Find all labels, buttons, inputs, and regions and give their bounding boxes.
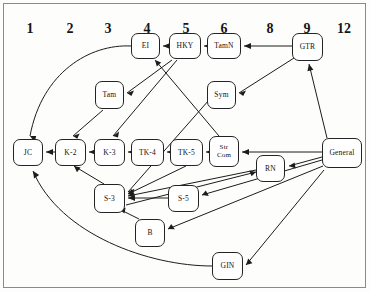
- node-tk4[interactable]: TK-4: [131, 139, 164, 166]
- node-gtr[interactable]: GTR: [292, 33, 323, 61]
- model-hierarchy-diagram: 1234568912 JCK-2K-3TK-4TK-5Str ComTamSym…: [0, 0, 370, 292]
- node-label: Sym: [214, 91, 228, 99]
- node-jc[interactable]: JC: [13, 139, 43, 166]
- node-tamn[interactable]: TamN: [207, 33, 241, 59]
- node-label: RN: [265, 165, 276, 173]
- node-b[interactable]: B: [135, 219, 165, 247]
- node-label: B: [147, 229, 152, 237]
- column-number-1: 1: [27, 22, 34, 36]
- node-label: S-3: [104, 195, 115, 203]
- node-label: K-3: [103, 149, 115, 157]
- node-strcom[interactable]: Str Com: [209, 136, 239, 167]
- node-label: TamN: [214, 42, 233, 50]
- node-label: HKY: [177, 42, 194, 50]
- node-label: GTR: [300, 43, 316, 51]
- node-k3[interactable]: K-3: [94, 139, 125, 166]
- node-tam[interactable]: Tam: [95, 81, 124, 109]
- node-label: GIN: [221, 262, 235, 270]
- node-label: EI: [142, 42, 149, 50]
- node-label: TK-5: [178, 149, 195, 157]
- column-number-12: 12: [337, 22, 351, 36]
- node-label: JC: [24, 149, 32, 157]
- node-label: K-2: [64, 149, 76, 157]
- node-rn[interactable]: RN: [256, 155, 285, 182]
- column-number-3: 3: [105, 22, 112, 36]
- node-label: Tam: [103, 91, 117, 99]
- node-label: General: [329, 149, 354, 157]
- column-number-2: 2: [67, 22, 74, 36]
- node-ei[interactable]: EI: [131, 33, 160, 59]
- node-label: TK-4: [139, 149, 156, 157]
- node-k2[interactable]: K-2: [55, 139, 86, 166]
- node-hky[interactable]: HKY: [169, 33, 201, 59]
- column-number-8: 8: [267, 22, 274, 36]
- node-tk5[interactable]: TK-5: [170, 139, 203, 166]
- node-gin[interactable]: GIN: [212, 252, 243, 280]
- node-sym[interactable]: Sym: [207, 81, 236, 109]
- node-s5[interactable]: S-5: [168, 185, 199, 212]
- node-label: S-5: [178, 195, 189, 203]
- node-general[interactable]: General: [322, 138, 362, 168]
- node-label: Str Com: [217, 144, 231, 159]
- node-s3[interactable]: S-3: [94, 184, 125, 213]
